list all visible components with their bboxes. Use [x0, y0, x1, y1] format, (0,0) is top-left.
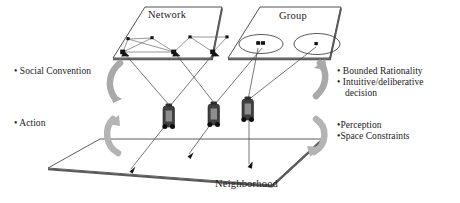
agent-panel: [166, 111, 172, 122]
network-node: [188, 35, 191, 38]
agent-wheel: [241, 117, 246, 122]
label-action: • Action: [14, 118, 45, 129]
agent-link-line: [170, 53, 214, 106]
network-node: [225, 35, 228, 38]
network-plane-title: Network: [148, 9, 186, 21]
label-intuitive-decision: • Intuitive/deliberative decision: [337, 77, 424, 99]
label-bounded-rationality: • Bounded Rationality: [337, 66, 423, 77]
group-member-node: [261, 41, 265, 45]
label-space-constraints: •Space Constraints: [337, 131, 410, 142]
group-member-node: [314, 42, 317, 45]
agent-2: [207, 102, 220, 127]
feedback-arrow-right-upper: [314, 59, 327, 96]
agent-panel: [245, 104, 251, 115]
label-intuitive-decision-line1: • Intuitive/deliberative: [337, 77, 424, 87]
agent-wheel: [215, 122, 220, 127]
group-plane-title: Group: [279, 10, 307, 22]
label-perception: •Perception: [337, 120, 382, 131]
label-intuitive-decision-line2: decision: [337, 88, 424, 99]
group-member-node: [256, 41, 260, 45]
agent-wheel: [170, 124, 175, 129]
agent-link-line: [124, 53, 170, 106]
neighborhood-plane-title: Neighborhood: [215, 178, 278, 190]
diagram-svg: [0, 0, 460, 203]
agent-head: [211, 102, 217, 105]
agent-head: [245, 97, 251, 100]
feedback-arrow-right-lower: [307, 119, 324, 157]
agent-wheel: [249, 117, 254, 122]
agent-wheel: [207, 122, 212, 127]
network-node: [150, 36, 153, 39]
agent-head: [166, 104, 172, 107]
agent-panel: [211, 109, 217, 120]
network-node: [126, 37, 129, 40]
agent-link-line: [175, 53, 215, 104]
agent-3: [241, 97, 254, 122]
agent-wheel: [162, 124, 167, 129]
agent-1: [162, 104, 175, 129]
feedback-arrow-left-upper: [110, 63, 122, 103]
label-social-convention: • Social Convention: [14, 66, 91, 77]
diagram-canvas: Network Group Neighborhood • Social Conv…: [0, 0, 460, 203]
neighborhood-plane: [48, 139, 322, 186]
